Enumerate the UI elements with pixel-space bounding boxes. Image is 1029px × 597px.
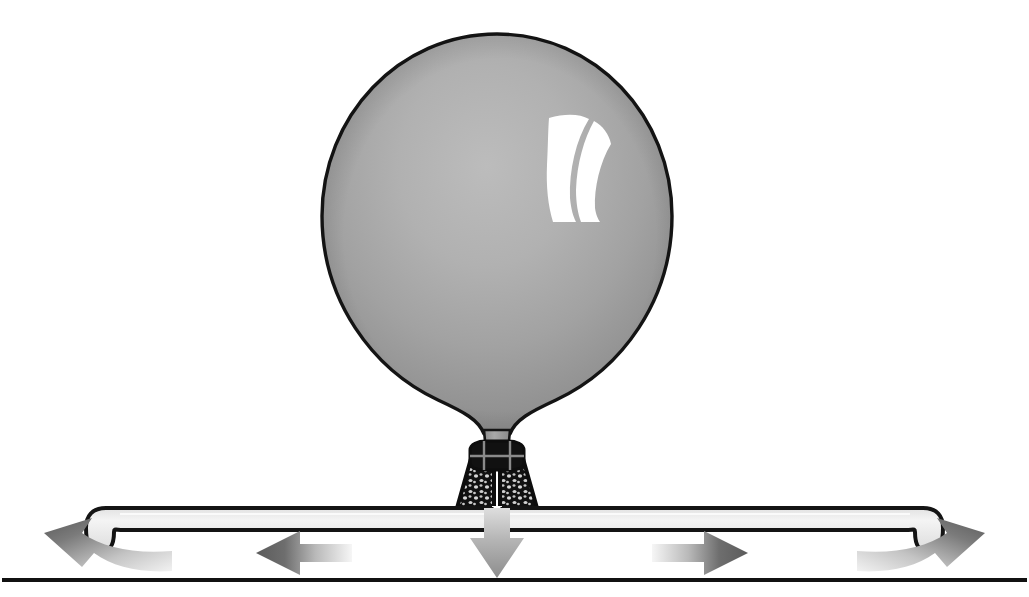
balloon-shading-overlay: [310, 20, 690, 450]
balloon: [310, 20, 690, 452]
balloon-force-diagram: [0, 0, 1029, 597]
right-force-arrow-body: [652, 531, 748, 575]
illustration-canvas: Inflated balloon tied to a flexible bar …: [0, 0, 1029, 597]
left-force-arrow: [256, 531, 352, 575]
left-force-arrow-body: [256, 531, 352, 575]
right-force-arrow: [652, 531, 748, 575]
tied-knot: [457, 441, 537, 508]
